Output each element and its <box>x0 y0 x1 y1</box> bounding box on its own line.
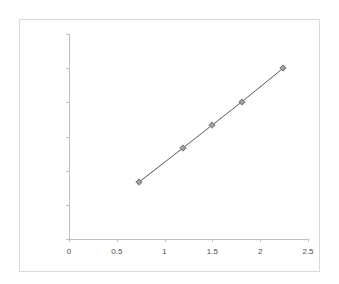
chart-container: 050000100000150000200000250000300000 00.… <box>0 0 339 284</box>
x-axis-tick-label: 1 <box>162 247 166 256</box>
x-axis-tick-label: 0 <box>67 247 71 256</box>
x-axis-tick-label: 2.5 <box>302 247 313 256</box>
x-axis-tick-label: 2 <box>258 247 262 256</box>
series-line-path <box>69 34 308 239</box>
plot-area <box>69 34 308 239</box>
x-axis-tick-label: 1.5 <box>207 247 218 256</box>
chart-frame: 050000100000150000200000250000300000 00.… <box>19 19 320 272</box>
x-axis-tick-label: 0.5 <box>111 247 122 256</box>
